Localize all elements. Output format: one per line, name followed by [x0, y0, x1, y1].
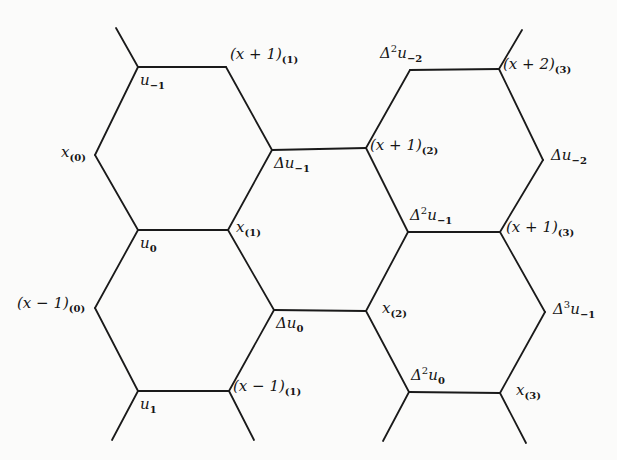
label-base: u [140, 71, 150, 89]
label-subscript: (0) [69, 152, 85, 163]
vertex-label-du_m2: Δu−2 [551, 148, 587, 166]
label-base: Δu [551, 146, 572, 164]
label-subscript: −2 [407, 53, 422, 64]
vertex-label-d2u_m2: Δ2u−2 [380, 44, 422, 64]
label-base: u [140, 395, 150, 413]
edge-d2u_0-x_3 [409, 392, 500, 393]
vertex-label-x_0: x(0) [61, 145, 86, 163]
label-u: u [570, 300, 580, 318]
edge-d2u_m2-xp2_3 [410, 69, 499, 70]
label-base: Δ [410, 206, 421, 224]
edge-xp1_3-d3u_m1 [500, 232, 545, 312]
label-base: Δ [553, 300, 564, 318]
edge-xm1_0-u_1 [95, 308, 138, 391]
edge-xp1_1-du_m1 [226, 67, 272, 150]
vertex-label-xm1_1: (x − 1)(1) [233, 379, 301, 397]
edge-u_m1-x_0 [95, 67, 138, 155]
label-base: (x + 1) [370, 136, 422, 154]
edge-xp1_2-d2u_m1 [366, 148, 408, 232]
label-subscript: −1 [295, 163, 310, 174]
vertex-label-du_0: Δu0 [276, 316, 303, 334]
label-base: Δ [380, 44, 391, 62]
vertex-label-xm1_0: (x − 1)(0) [17, 296, 85, 314]
edge-x_1-du_0 [228, 230, 274, 310]
label-u: u [427, 206, 437, 224]
label-u: u [428, 366, 438, 384]
label-u: u [397, 44, 407, 62]
label-subscript: 0 [438, 375, 445, 386]
label-base: (x + 1) [230, 45, 282, 63]
edge-du_m1-xp1_2 [272, 148, 366, 150]
label-base: Δu [274, 154, 295, 172]
label-subscript: (1) [285, 386, 301, 397]
edge-stub-0 [116, 28, 138, 67]
edge-stub-4 [383, 392, 409, 441]
lattice-edge-stubs [112, 28, 526, 443]
vertex-label-u_0: u0 [140, 236, 157, 254]
label-subscript: −1 [150, 80, 165, 91]
edge-x_0-u_0 [95, 155, 138, 230]
vertex-label-du_m1: Δu−1 [274, 156, 310, 174]
vertex-label-u_m1: u−1 [140, 73, 165, 91]
lattice-edges [95, 67, 545, 393]
label-base: Δ [411, 366, 422, 384]
label-subscript: (2) [422, 145, 438, 156]
vertex-label-u_1: u1 [140, 397, 157, 415]
label-subscript: (3) [524, 390, 540, 401]
vertex-label-x_1: x(1) [236, 220, 261, 238]
label-subscript: −1 [437, 215, 452, 226]
label-subscript: (0) [69, 303, 85, 314]
label-subscript: (1) [244, 227, 260, 238]
edge-du_m1-x_1 [228, 150, 272, 230]
label-base: (x + 1) [506, 218, 558, 236]
label-subscript: (3) [555, 64, 571, 75]
vertex-label-xp1_1: (x + 1)(1) [230, 47, 298, 65]
edge-du_0-x_2 [274, 310, 366, 311]
label-subscript: −1 [580, 309, 595, 320]
label-subscript: (3) [558, 227, 574, 238]
label-subscript: (1) [282, 54, 298, 65]
label-subscript: (2) [390, 308, 406, 319]
vertex-label-x_2: x(2) [382, 301, 407, 319]
edge-x_2-d2u_0 [366, 311, 409, 392]
label-subscript: 1 [150, 404, 157, 415]
label-base: (x − 1) [17, 294, 69, 312]
label-base: Δu [276, 314, 297, 332]
vertex-label-d2u_m1: Δ2u−1 [410, 206, 452, 226]
label-subscript: 0 [150, 243, 157, 254]
vertex-label-xp1_2: (x + 1)(2) [370, 138, 438, 156]
vertex-label-xp2_3: (x + 2)(3) [503, 57, 571, 75]
label-subscript: −2 [572, 155, 587, 166]
label-base: (x + 2) [503, 55, 555, 73]
vertex-label-d3u_m1: Δ3u−1 [553, 300, 595, 320]
vertex-label-x_3: x(3) [516, 383, 541, 401]
label-base: u [140, 234, 150, 252]
edge-xp2_3-du_m2 [499, 69, 543, 160]
edge-stub-2 [112, 391, 138, 440]
vertex-label-xp1_3: (x + 1)(3) [506, 220, 574, 238]
vertex-label-d2u_0: Δ2u0 [411, 366, 445, 386]
edge-stub-3 [229, 391, 254, 440]
label-base: (x − 1) [233, 377, 285, 395]
edge-u_0-xm1_0 [95, 230, 138, 308]
label-subscript: 0 [297, 323, 304, 334]
